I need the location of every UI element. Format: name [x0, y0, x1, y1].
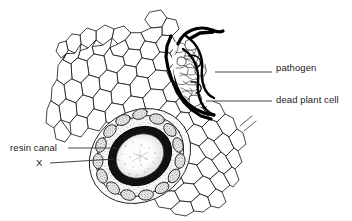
label-x: X — [36, 157, 42, 168]
label-pathogen: pathogen — [276, 62, 316, 73]
label-resin-canal: resin canal — [10, 142, 57, 153]
tissue-edge-lines — [240, 116, 256, 131]
label-dead-plant-cell: dead plant cell — [276, 94, 339, 105]
diagram-canvas — [0, 0, 352, 221]
plant-tissue-illustration — [0, 0, 352, 221]
